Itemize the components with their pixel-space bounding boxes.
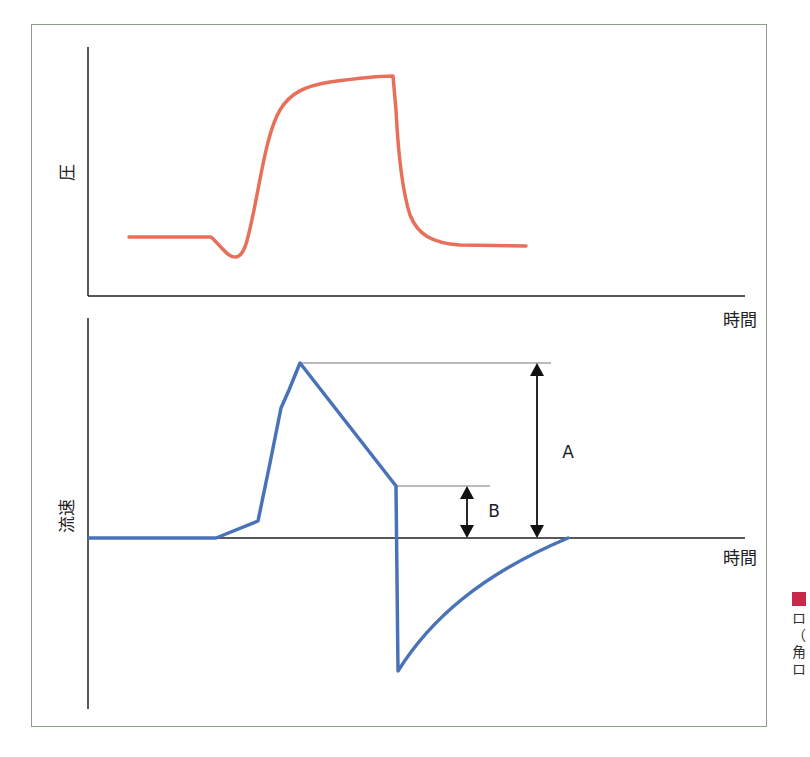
caption-glyph: ロ xyxy=(792,661,810,678)
flow-y-label: 流速 xyxy=(57,499,77,533)
measure-a-arrow xyxy=(530,363,544,538)
caption-marker xyxy=(792,592,806,606)
arrowhead-up-icon xyxy=(530,363,544,376)
cropped-side-caption: ロ （ 角 ロ xyxy=(792,592,810,678)
pressure-panel: 圧 時間 xyxy=(57,47,757,330)
caption-glyph: ロ xyxy=(792,610,810,627)
arrowhead-down-icon xyxy=(530,525,544,538)
flow-x-label: 時間 xyxy=(723,548,757,568)
pressure-curve xyxy=(129,76,526,257)
caption-glyph: 角 xyxy=(792,644,810,661)
measure-b-arrow xyxy=(460,486,474,538)
flow-panel: 流速 時間 A B xyxy=(57,318,757,709)
measure-a-label: A xyxy=(562,442,574,462)
caption-glyph: （ xyxy=(792,627,810,644)
pressure-x-label: 時間 xyxy=(723,310,757,330)
pressure-y-label: 圧 xyxy=(57,164,77,181)
arrowhead-down-icon xyxy=(460,525,474,538)
arrowhead-up-icon xyxy=(460,486,474,499)
measure-b-label: B xyxy=(488,501,500,521)
